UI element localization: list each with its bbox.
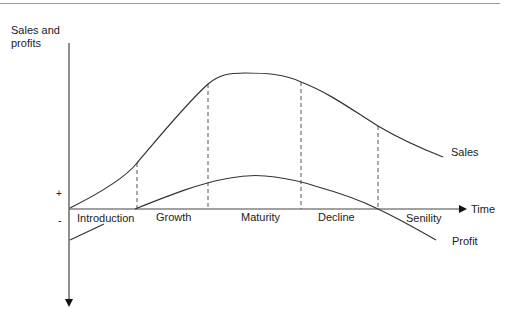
y-axis-label-line1: Sales and xyxy=(11,24,60,37)
y-axis-arrow-down-icon xyxy=(65,299,73,307)
profit-curve xyxy=(135,176,436,240)
y-axis-label-line2: profits xyxy=(11,37,41,50)
profit-curve-intro-segment xyxy=(70,224,104,240)
stage-label-senility: Senility xyxy=(406,212,441,225)
profit-curve-label: Profit xyxy=(452,235,478,248)
minus-sign: - xyxy=(58,214,62,227)
stage-label-introduction: Introduction xyxy=(77,212,134,225)
time-axis-arrow-right-icon xyxy=(459,205,467,213)
sales-curve-label: Sales xyxy=(451,146,479,159)
stage-label-decline: Decline xyxy=(318,211,355,224)
x-axis-label-time: Time xyxy=(471,203,495,216)
stage-label-growth: Growth xyxy=(156,211,191,224)
sales-curve xyxy=(70,73,443,208)
stage-label-maturity: Maturity xyxy=(241,211,280,224)
plus-sign: + xyxy=(56,187,62,200)
product-life-cycle-diagram xyxy=(0,0,509,320)
